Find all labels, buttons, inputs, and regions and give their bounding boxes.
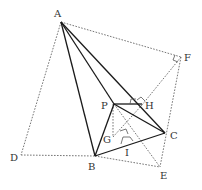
label-D: D — [10, 152, 18, 163]
label-F: F — [184, 52, 191, 63]
label-H: H — [145, 100, 154, 111]
segment-FH — [142, 57, 181, 105]
dotted-lines — [21, 22, 181, 167]
label-P: P — [101, 100, 108, 111]
right-angle-mark-G — [120, 129, 128, 134]
segment-AB — [61, 22, 95, 156]
segment-FE — [160, 57, 181, 167]
segment-PE — [114, 104, 160, 167]
solid-lines — [61, 22, 165, 156]
segment-DB — [21, 155, 95, 156]
geometry-diagram: A F D B C E P H G I — [0, 0, 202, 190]
label-I: I — [125, 147, 129, 158]
label-C: C — [170, 130, 178, 141]
segment-AP — [61, 22, 114, 104]
label-E: E — [160, 170, 167, 181]
right-angle-mark-I — [121, 137, 133, 144]
segment-AD — [21, 22, 61, 155]
label-G: G — [103, 134, 111, 145]
label-A: A — [53, 8, 62, 19]
label-B: B — [88, 161, 95, 172]
segment-PB — [95, 104, 114, 156]
segment-AF — [61, 22, 181, 57]
right-angle-mark-H — [137, 97, 145, 101]
